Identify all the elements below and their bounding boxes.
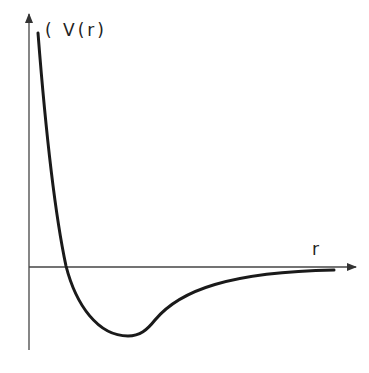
potential-diagram: ( V(r) r (0, 0, 369, 373)
y-axis-label: ( V(r) (45, 20, 107, 40)
potential-curve (38, 33, 334, 336)
x-axis-label: r (312, 239, 322, 259)
